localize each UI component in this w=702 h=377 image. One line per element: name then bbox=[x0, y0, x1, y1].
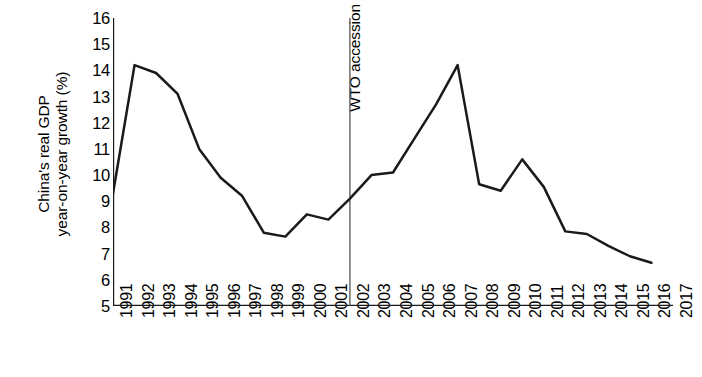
x-axis-tick-label: 2017 bbox=[679, 284, 695, 318]
chart-figure: China's real GDP year-on-year growth (%)… bbox=[0, 0, 702, 377]
plot-area bbox=[113, 18, 673, 306]
axis-lines bbox=[113, 18, 673, 306]
gdp-growth-line bbox=[113, 65, 651, 263]
data-series-layer bbox=[113, 65, 651, 263]
